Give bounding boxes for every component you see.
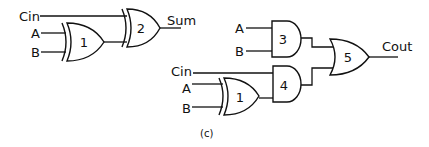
xor-gate-1: 1 — [62, 23, 104, 61]
input-label-b-bottom: B — [182, 101, 191, 116]
and-gate-4: 4 — [273, 66, 301, 102]
gate-label-1-carry: 1 — [236, 90, 244, 105]
xor-gate-2: 2 — [122, 9, 160, 47]
wire-and4-to-or5 — [301, 68, 333, 85]
and-gate-3: 3 — [272, 21, 301, 57]
gate-label-2: 2 — [137, 21, 145, 36]
gate-label-3: 3 — [279, 32, 287, 47]
input-label-cin: Cin — [19, 9, 40, 24]
wire-and3-to-or5 — [301, 38, 333, 47]
gate-label-1: 1 — [80, 35, 88, 50]
carry-circuit: A B Cin A B 3 1 4 — [171, 21, 412, 116]
input-label-a: A — [31, 26, 40, 41]
input-label-cin: Cin — [171, 64, 192, 79]
or-gate-5: 5 — [330, 39, 369, 75]
input-label-b-top: B — [235, 44, 244, 59]
sum-circuit: Cin A B 1 2 Sum — [19, 9, 196, 61]
output-label-sum: Sum — [167, 13, 196, 28]
figure-caption: (c) — [200, 128, 213, 139]
input-label-a-top: A — [235, 21, 244, 36]
input-label-a-bottom: A — [182, 81, 191, 96]
output-label-cout: Cout — [382, 39, 412, 54]
xor-gate-1-carry: 1 — [219, 78, 259, 115]
input-label-b: B — [31, 45, 40, 60]
full-adder-diagram: Cin A B 1 2 Sum A B Cin A B — [0, 0, 429, 147]
gate-label-5: 5 — [344, 50, 352, 65]
gate-label-4: 4 — [280, 78, 288, 93]
